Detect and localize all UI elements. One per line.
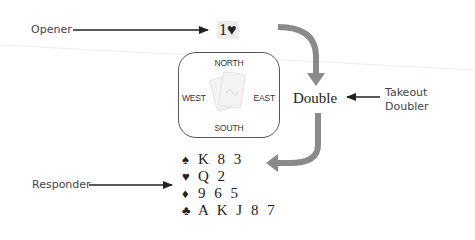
- hearts-cards: Q 2: [198, 168, 228, 184]
- hand-row-spades: ♠K 8 3: [182, 151, 277, 168]
- bridge-table: NORTH WEST EAST SOUTH: [178, 52, 280, 138]
- responder-label: Responder: [32, 178, 91, 191]
- diamond-icon: ♦: [182, 185, 198, 202]
- club-icon: ♣: [182, 202, 198, 219]
- responder-hand: ♠K 8 3 ♥Q 2 ♦9 6 5 ♣A K J 8 7: [182, 151, 277, 219]
- spades-cards: K 8 3: [198, 151, 244, 167]
- takeout-doubler-label: Takeout Doubler: [385, 86, 429, 114]
- diamonds-cards: 9 6 5: [198, 185, 241, 201]
- spade-icon: ♠: [182, 151, 198, 168]
- hand-row-diamonds: ♦9 6 5: [182, 185, 277, 202]
- playing-cards-icon: [179, 53, 279, 137]
- hand-row-hearts: ♥Q 2: [182, 168, 277, 185]
- double-bid: Double: [293, 90, 337, 107]
- heart-icon: ♥: [182, 168, 198, 185]
- clubs-cards: A K J 8 7: [198, 202, 277, 218]
- takeout-doubler-line2: Doubler: [385, 100, 429, 114]
- takeout-doubler-line1: Takeout: [385, 86, 429, 100]
- flow-arrow-opener-to-double: [278, 27, 325, 86]
- opening-bid: 1♥: [217, 21, 239, 39]
- opener-label: Opener: [31, 23, 72, 36]
- hand-row-clubs: ♣A K J 8 7: [182, 202, 277, 219]
